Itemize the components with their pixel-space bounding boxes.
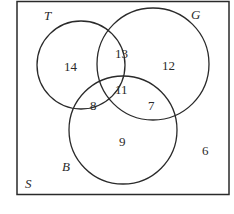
- set-label-g: G: [191, 7, 201, 22]
- region-outside: 6: [202, 143, 209, 158]
- region-t-g-b: 11: [115, 82, 128, 97]
- venn-diagram: T G B S 14 13 12 11 8 7 9 6: [0, 0, 234, 214]
- universe-label-s: S: [25, 176, 32, 191]
- set-label-t: T: [44, 8, 52, 23]
- region-g-and-b: 7: [148, 98, 155, 113]
- region-g-only: 12: [162, 58, 175, 73]
- region-t-and-g: 13: [115, 46, 128, 61]
- set-label-b: B: [62, 159, 70, 174]
- region-t-and-b: 8: [90, 98, 97, 113]
- region-t-only: 14: [64, 59, 78, 74]
- region-b-only: 9: [119, 134, 126, 149]
